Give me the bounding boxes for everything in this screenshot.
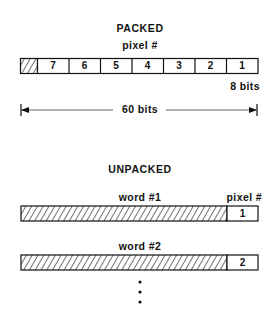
unpacked-word-2-bar bbox=[21, 255, 258, 270]
unpacked-title: UNPACKED bbox=[95, 163, 185, 175]
packed-cell-3: 3 bbox=[163, 60, 195, 71]
word-2-label: word #2 bbox=[110, 240, 170, 252]
packed-cell-1: 1 bbox=[226, 60, 258, 71]
total-width-label: 60 bits bbox=[114, 103, 166, 115]
cell-size-label: 8 bits bbox=[218, 80, 260, 92]
word-2-pixel: 2 bbox=[227, 257, 258, 268]
packed-cell-7: 7 bbox=[37, 60, 69, 71]
packed-cell-5: 5 bbox=[100, 60, 132, 71]
continuation-dots bbox=[138, 280, 141, 303]
packed-hatched-cell bbox=[21, 59, 38, 74]
unpacked-pixel-label: pixel # bbox=[212, 191, 262, 203]
word-1-label: word #1 bbox=[110, 191, 170, 203]
unpacked-word-1-bar bbox=[21, 206, 258, 221]
packed-cell-6: 6 bbox=[69, 60, 100, 71]
packed-cell-2: 2 bbox=[195, 60, 226, 71]
packed-cell-4: 4 bbox=[132, 60, 163, 71]
word-1-pixel: 1 bbox=[227, 208, 258, 219]
